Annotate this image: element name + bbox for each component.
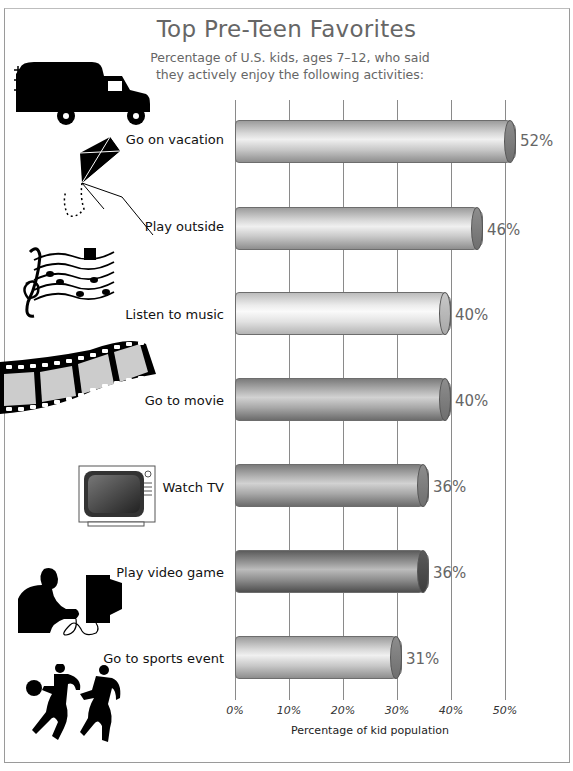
value-label: 36% xyxy=(433,478,466,496)
gridline-40 xyxy=(451,100,452,700)
bar-go-on-vacation xyxy=(235,120,516,163)
x-axis-label: Percentage of kid population xyxy=(235,724,505,737)
bar-watch-tv xyxy=(235,464,429,507)
value-label: 40% xyxy=(455,306,488,324)
rv-camper-icon xyxy=(12,60,154,130)
x-tick-label: 10% xyxy=(269,704,309,717)
kite-icon xyxy=(50,135,160,235)
value-label: 36% xyxy=(433,564,466,582)
bar-go-to-sports-event xyxy=(235,636,402,679)
gridline-50 xyxy=(505,100,506,700)
x-tick-label: 40% xyxy=(431,704,471,717)
music-notes-icon xyxy=(10,242,122,322)
x-tick-label: 30% xyxy=(377,704,417,717)
film-strip-icon xyxy=(0,330,160,415)
value-label: 46% xyxy=(487,221,520,239)
bar-go-to-movie xyxy=(235,378,451,421)
category-label: Watch TV xyxy=(163,480,224,495)
video-gamer-icon xyxy=(16,563,124,643)
basketball-players-icon xyxy=(24,664,136,748)
bar-listen-to-music xyxy=(235,292,451,335)
category-label: Play video game xyxy=(116,565,224,580)
value-label: 40% xyxy=(455,392,488,410)
x-tick-label: 0% xyxy=(215,704,255,717)
bar-play-outside xyxy=(235,207,483,250)
x-tick-label: 50% xyxy=(485,704,525,717)
value-label: 52% xyxy=(520,132,553,150)
category-label: Listen to music xyxy=(125,307,224,322)
value-label: 31% xyxy=(406,650,439,668)
chart-title: Top Pre-Teen Favorites xyxy=(0,16,573,42)
television-icon xyxy=(78,465,156,527)
chart-subtitle: Percentage of U.S. kids, ages 7–12, who … xyxy=(140,49,440,83)
subtitle-line-1: Percentage of U.S. kids, ages 7–12, who … xyxy=(140,49,440,66)
x-tick-label: 20% xyxy=(323,704,363,717)
bar-play-video-game xyxy=(235,550,429,593)
subtitle-line-2: they actively enjoy the following activi… xyxy=(140,66,440,83)
